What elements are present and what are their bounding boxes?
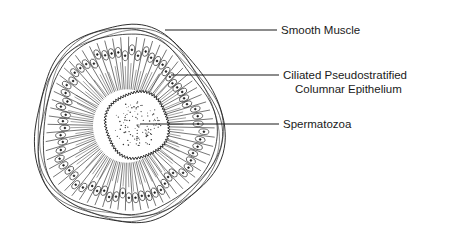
nucleolus bbox=[93, 63, 95, 65]
nucleolus bbox=[111, 53, 113, 55]
spermatozoon-dot bbox=[118, 116, 119, 117]
spermatozoon-dot bbox=[135, 117, 136, 118]
cilia-stroke bbox=[71, 127, 93, 128]
spermatozoon-dot bbox=[137, 118, 138, 119]
nucleolus bbox=[141, 195, 143, 197]
nucleolus bbox=[96, 54, 98, 56]
spermatozoon-dot bbox=[137, 101, 138, 102]
cilia-stroke bbox=[128, 163, 129, 188]
spermatozoon-dot bbox=[120, 125, 121, 126]
spermatozoon-dot bbox=[134, 111, 135, 112]
spermatozoon-dot bbox=[128, 110, 129, 111]
spermatozoon-dot bbox=[130, 134, 131, 135]
nucleolus bbox=[131, 49, 133, 51]
spermatozoon-dot bbox=[149, 132, 150, 133]
nucleolus bbox=[162, 64, 164, 66]
nucleolus bbox=[96, 190, 98, 192]
nucleolus bbox=[68, 169, 70, 171]
duct-cross-section-diagram bbox=[0, 0, 457, 250]
spermatozoon-dot bbox=[129, 120, 130, 121]
spermatozoon-dot bbox=[126, 114, 127, 115]
spermatozoon-dot bbox=[138, 145, 139, 146]
spermatozoon-dot bbox=[147, 113, 148, 114]
spermatozoon-dot bbox=[135, 108, 136, 109]
spermatozoon-dot bbox=[136, 107, 137, 108]
nucleolus bbox=[176, 87, 178, 89]
nucleolus bbox=[85, 63, 87, 65]
spermatozoon-dot bbox=[147, 133, 148, 134]
spermatozoon-dot bbox=[125, 104, 127, 106]
spermatozoon-dot bbox=[154, 119, 155, 120]
spermatozoon-dot bbox=[141, 116, 142, 117]
spermatozoon-dot bbox=[141, 105, 142, 106]
nucleolus bbox=[62, 120, 64, 122]
nucleolus bbox=[150, 57, 152, 59]
cell-boundary bbox=[47, 129, 94, 133]
spermatozoon-dot bbox=[128, 144, 130, 146]
cilia-stroke bbox=[133, 70, 137, 90]
cell-boundary bbox=[48, 124, 93, 125]
spermatozoon-dot bbox=[133, 106, 135, 108]
nucleolus bbox=[181, 91, 183, 93]
spermatozoon-dot bbox=[123, 132, 124, 133]
spermatozoon-dot bbox=[147, 115, 148, 116]
spermatozoon-dot bbox=[126, 120, 127, 121]
spermatozoon-dot bbox=[128, 106, 129, 107]
nucleolus bbox=[59, 158, 61, 160]
nucleolus bbox=[188, 167, 190, 169]
label-epithelium: Ciliated Pseudostratified Columnar Epith… bbox=[283, 68, 407, 96]
cell-boundary bbox=[138, 41, 153, 91]
cell-boundary bbox=[128, 37, 129, 90]
spermatozoon-dot bbox=[145, 142, 146, 143]
spermatozoon-dot bbox=[147, 143, 148, 144]
spermatozoon-dot bbox=[128, 131, 129, 132]
nucleolus bbox=[197, 146, 199, 148]
cilia-stroke bbox=[109, 72, 117, 91]
spermatozoon-dot bbox=[129, 112, 130, 113]
spermatozoon-dot bbox=[160, 125, 161, 126]
spermatozoon-dot bbox=[151, 134, 152, 135]
spermatozoon-dot bbox=[124, 119, 125, 120]
spermatozoon-dot bbox=[127, 127, 128, 128]
label-spermatozoa-text: Spermatozoa bbox=[283, 117, 351, 131]
spermatozoon-dot bbox=[117, 136, 118, 137]
cilia-stroke bbox=[83, 81, 102, 101]
spermatozoon-dot bbox=[135, 128, 136, 129]
nucleolus bbox=[190, 160, 192, 162]
spermatozoon-dot bbox=[136, 102, 137, 103]
cell-boundary bbox=[130, 163, 133, 211]
cell-boundary bbox=[133, 162, 141, 210]
spermatozoon-dot bbox=[124, 117, 125, 118]
cell-boundary bbox=[118, 163, 123, 210]
spermatozoon-dot bbox=[132, 135, 133, 136]
label-epithelium-line2: Columnar Epithelium bbox=[283, 82, 407, 96]
spermatozoon-dot bbox=[141, 111, 142, 112]
spermatozoon-dot bbox=[139, 125, 140, 126]
spermatozoon-dot bbox=[137, 114, 138, 115]
spermatozoon-dot bbox=[137, 130, 138, 131]
spermatozoon-dot bbox=[130, 142, 131, 143]
label-spermatozoa: Spermatozoa bbox=[283, 117, 351, 131]
spermatozoon-dot bbox=[136, 143, 137, 144]
cilia-stroke bbox=[129, 63, 131, 89]
spermatozoon-dot bbox=[147, 135, 148, 136]
cilia-stroke bbox=[154, 149, 173, 164]
nucleolus bbox=[60, 134, 62, 136]
spermatozoon-dot bbox=[125, 127, 126, 128]
nucleolus bbox=[203, 131, 205, 133]
spermatozoon-dot bbox=[119, 121, 121, 123]
spermatozoon-dot bbox=[149, 120, 151, 122]
nucleolus bbox=[128, 197, 130, 199]
spermatozoon-dot bbox=[146, 136, 148, 138]
spermatozoon-dot bbox=[145, 133, 146, 134]
spermatozoon-dot bbox=[125, 131, 126, 132]
nucleolus bbox=[64, 127, 66, 129]
spermatozoon-dot bbox=[131, 107, 132, 108]
spermatozoon-dot bbox=[146, 134, 147, 135]
spermatozoon-dot bbox=[119, 138, 120, 139]
nucleolus bbox=[82, 187, 84, 189]
spermatozoon-dot bbox=[151, 139, 153, 141]
spermatozoon-dot bbox=[148, 129, 149, 130]
spermatozoon-dot bbox=[127, 140, 128, 141]
spermatozoon-dot bbox=[123, 122, 124, 123]
